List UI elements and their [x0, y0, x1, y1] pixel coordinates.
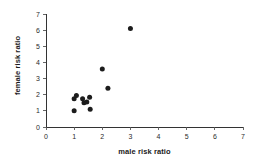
data-point	[128, 26, 133, 31]
x-tick-label: 7	[241, 133, 245, 140]
plot-area: 0123456701234567	[0, 0, 254, 165]
y-tick-label: 5	[36, 43, 40, 50]
x-tick-label: 0	[44, 133, 48, 140]
y-tick-label: 3	[36, 75, 40, 82]
y-tick-label: 4	[36, 59, 40, 66]
y-tick-label: 2	[36, 91, 40, 98]
x-tick-label: 5	[185, 133, 189, 140]
x-tick-label: 6	[213, 133, 217, 140]
tick-labels-group: 0123456701234567	[36, 11, 245, 140]
scatter-chart: female risk ratio 0123456701234567 male …	[0, 0, 254, 165]
data-points-group	[72, 26, 133, 113]
data-point	[72, 108, 77, 113]
x-tick-label: 3	[128, 133, 132, 140]
data-point	[105, 86, 110, 91]
x-tick-label: 1	[72, 133, 76, 140]
y-tick-label: 0	[36, 124, 40, 131]
y-tick-label: 1	[36, 107, 40, 114]
y-tick-label: 7	[36, 11, 40, 18]
data-point	[88, 107, 93, 112]
y-tick-label: 6	[36, 27, 40, 34]
x-tick-label: 4	[157, 133, 161, 140]
data-point	[100, 66, 105, 71]
data-point	[84, 99, 89, 104]
x-axis-label: male risk ratio	[46, 147, 243, 156]
data-point	[74, 93, 79, 98]
x-tick-label: 2	[100, 133, 104, 140]
data-point	[87, 95, 92, 100]
